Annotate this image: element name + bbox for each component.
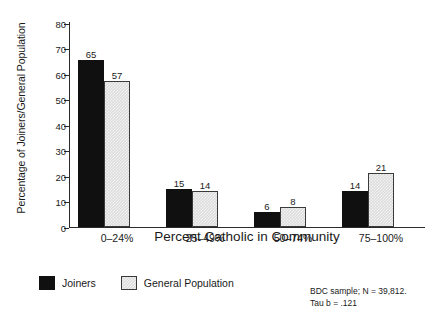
y-tick-label: 60: [55, 69, 66, 80]
bar-chart-figure: Percentage of Joiners/General Population…: [0, 0, 437, 322]
bar-value-label: 57: [112, 70, 123, 81]
legend-entry-joiners[interactable]: Joiners: [39, 276, 96, 290]
bar-joiners-25-49[interactable]: 15: [166, 189, 192, 227]
bar-value-label: 21: [376, 162, 387, 173]
bar-value-label: 65: [86, 49, 97, 60]
bar-value-label: 14: [200, 180, 211, 191]
bar-joiners-75-100[interactable]: 14: [342, 191, 368, 227]
bar-genpop-50-74[interactable]: 8: [280, 207, 306, 228]
bar-joiners-50-74[interactable]: 6: [254, 212, 280, 227]
y-axis-line: [69, 22, 70, 228]
x-axis-line: [69, 227, 425, 228]
bar-value-label: 6: [264, 201, 269, 212]
y-tick-label: 0: [61, 222, 66, 233]
y-tick-label: 20: [55, 171, 66, 182]
legend: Joiners General Population: [39, 276, 234, 290]
bar-value-label: 15: [174, 178, 185, 189]
x-axis-title: Percent Catholic in Community: [69, 229, 425, 244]
footnote-tau-line: Tau b = .121: [310, 298, 407, 310]
footnote: BDC sample; N = 39,812. Tau b = .121: [310, 286, 407, 309]
bar-genpop-25-49[interactable]: 14: [192, 191, 218, 227]
bar-value-label: 14: [350, 180, 361, 191]
y-tick-label: 80: [55, 18, 66, 29]
bar-value-label: 8: [290, 196, 295, 207]
bar-joiners-0-24[interactable]: 65: [78, 60, 104, 227]
y-tick-label: 40: [55, 120, 66, 131]
y-tick-label: 50: [55, 95, 66, 106]
legend-entry-general-population[interactable]: General Population: [121, 276, 234, 290]
y-tick-label: 30: [55, 146, 66, 157]
footnote-sample-line: BDC sample; N = 39,812.: [310, 286, 407, 298]
plot-area: 0 10 20 30 40 50 60 70: [69, 22, 425, 228]
y-tick-label: 70: [55, 44, 66, 55]
bar-genpop-0-24[interactable]: 57: [104, 81, 130, 227]
y-axis-title: Percentage of Joiners/General Population: [15, 13, 27, 223]
legend-swatch-general-population-icon: [121, 276, 137, 290]
legend-label-joiners: Joiners: [62, 277, 96, 289]
y-tick-label: 10: [55, 197, 66, 208]
legend-swatch-joiners-icon: [39, 276, 55, 290]
bar-genpop-75-100[interactable]: 21: [368, 173, 394, 227]
legend-label-general-population: General Population: [144, 277, 234, 289]
